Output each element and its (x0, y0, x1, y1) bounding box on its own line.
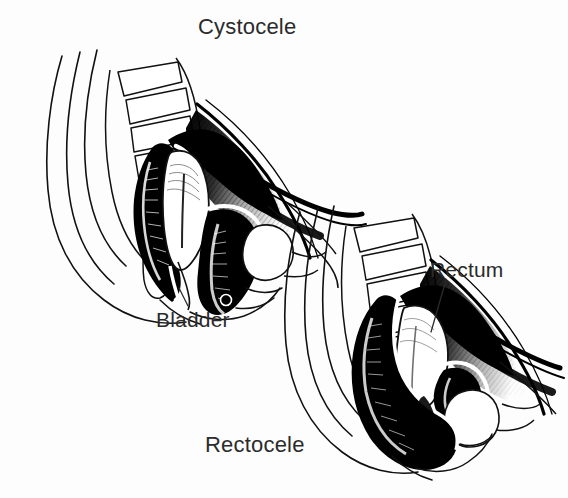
anatomy-label-bladder: Bladder (156, 308, 230, 332)
figure-caption-rectocele: Rectocele (205, 432, 305, 458)
urethral-orifice-1 (221, 295, 232, 306)
illustration-page: Cystocele Bladder Rectum Rectocele (0, 0, 568, 498)
anatomy-illustration (0, 0, 568, 498)
pubic-bone-1 (243, 225, 293, 280)
anatomy-label-rectum: Rectum (430, 258, 504, 282)
figure-caption-cystocele: Cystocele (198, 14, 296, 40)
